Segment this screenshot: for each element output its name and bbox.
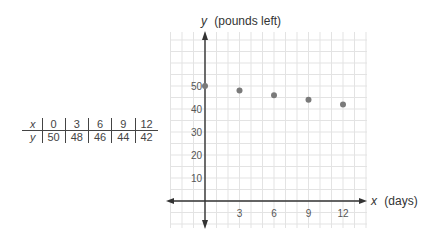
y-tick-label: 30: [191, 127, 203, 138]
x-tick-label: 12: [337, 208, 349, 219]
data-point: [202, 83, 208, 89]
y-tick-label: 10: [191, 173, 203, 184]
tick-labels: 369121020304050: [191, 81, 349, 219]
x-axis-label: x (days): [370, 194, 418, 208]
x-tick-label: 6: [271, 208, 277, 219]
y-tick-label: 20: [191, 150, 203, 161]
x-tick-label: 9: [306, 208, 312, 219]
data-point: [340, 101, 346, 107]
scatter-chart: 369121020304050 y (pounds left) x (days): [0, 0, 434, 233]
data-point: [306, 97, 312, 103]
x-tick-label: 3: [237, 208, 243, 219]
y-tick-label: 40: [191, 104, 203, 115]
y-tick-label: 50: [191, 81, 203, 92]
y-axis-label: y (pounds left): [200, 14, 281, 28]
data-point: [271, 92, 277, 98]
data-point: [237, 88, 243, 94]
